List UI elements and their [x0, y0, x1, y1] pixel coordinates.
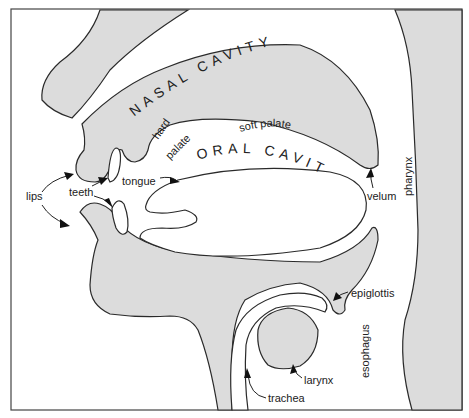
tongue-label: tongue: [122, 175, 156, 187]
pharynx-label: pharynx: [402, 156, 414, 196]
teeth-label: teeth: [69, 186, 93, 198]
esophagus-label: esophagus: [359, 324, 371, 378]
vocal-tract-diagram: NASAL CAVITY ORAL CAVITY soft palate har…: [0, 0, 469, 418]
larynx-label: larynx: [304, 374, 334, 386]
lips-label: lips: [26, 190, 43, 202]
trachea-label: trachea: [268, 392, 306, 404]
velum-label: velum: [367, 190, 396, 202]
epiglottis-label: epiglottis: [351, 287, 395, 299]
